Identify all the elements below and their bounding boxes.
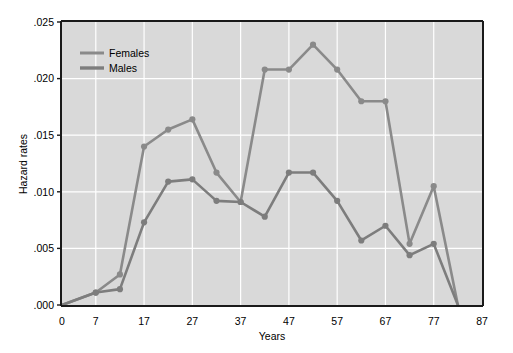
data-point bbox=[213, 198, 219, 204]
data-point bbox=[141, 219, 147, 225]
data-point bbox=[117, 271, 123, 277]
y-tick-label: .025 bbox=[34, 16, 55, 28]
x-tick-label: 17 bbox=[138, 315, 150, 327]
legend-label-females: Females bbox=[109, 47, 149, 59]
y-axis-title: Hazard rates bbox=[17, 134, 29, 194]
data-point bbox=[406, 241, 412, 247]
x-tick-label: 67 bbox=[380, 315, 392, 327]
data-point bbox=[382, 223, 388, 229]
chart-canvas: 071727374757677787 .000.005.010.015.020.… bbox=[0, 0, 513, 353]
y-tick-label: .010 bbox=[34, 186, 55, 198]
data-point bbox=[141, 143, 147, 149]
data-point bbox=[117, 286, 123, 292]
data-point bbox=[406, 252, 412, 258]
data-point bbox=[334, 198, 340, 204]
data-point bbox=[358, 98, 364, 104]
x-tick-label: 7 bbox=[93, 315, 99, 327]
data-point bbox=[262, 214, 268, 220]
data-point bbox=[286, 66, 292, 72]
legend-label-males: Males bbox=[109, 62, 137, 74]
data-point bbox=[286, 169, 292, 175]
data-point bbox=[431, 183, 437, 189]
data-point bbox=[165, 179, 171, 185]
x-tick-label: 87 bbox=[476, 315, 488, 327]
x-tick-label: 77 bbox=[428, 315, 440, 327]
y-tick-label: .000 bbox=[34, 299, 55, 311]
data-point bbox=[382, 98, 388, 104]
hazard-rates-chart: 071727374757677787 .000.005.010.015.020.… bbox=[0, 0, 513, 353]
data-point bbox=[189, 116, 195, 122]
x-tick-label: 0 bbox=[59, 315, 65, 327]
data-point bbox=[358, 237, 364, 243]
x-tick-label: 27 bbox=[187, 315, 199, 327]
x-axis-title: Years bbox=[259, 330, 285, 342]
data-point bbox=[165, 126, 171, 132]
data-point bbox=[310, 42, 316, 48]
data-point bbox=[189, 176, 195, 182]
data-point bbox=[334, 66, 340, 72]
y-tick-label: .015 bbox=[34, 129, 55, 141]
x-tick-label: 37 bbox=[235, 315, 247, 327]
x-tick-label: 47 bbox=[283, 315, 295, 327]
data-point bbox=[238, 199, 244, 205]
y-tick-label: .005 bbox=[34, 242, 55, 254]
data-point bbox=[431, 241, 437, 247]
x-tick-label: 57 bbox=[331, 315, 343, 327]
y-tick-label: .020 bbox=[34, 72, 55, 84]
data-point bbox=[310, 169, 316, 175]
data-point bbox=[93, 289, 99, 295]
data-point bbox=[213, 169, 219, 175]
data-point bbox=[262, 66, 268, 72]
